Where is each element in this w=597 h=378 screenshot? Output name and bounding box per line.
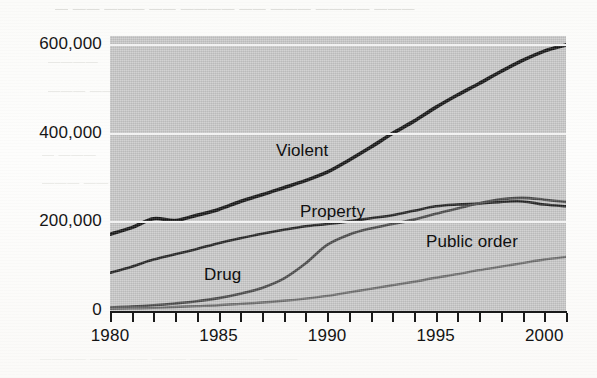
series-label-public-order: Public order — [426, 232, 518, 252]
y-tick-label-0: 0 — [0, 300, 102, 320]
y-tick-label-600000: 600,000 — [0, 34, 102, 54]
x-tick-label-1985: 1985 — [199, 326, 238, 346]
x-tick-1995 — [436, 313, 438, 322]
x-tick-2001 — [566, 313, 568, 322]
gridline-400000 — [110, 133, 566, 135]
x-tick-1985 — [219, 313, 221, 322]
x-tick-1994 — [414, 313, 416, 322]
x-tick-1993 — [392, 313, 394, 322]
x-tick-1983 — [175, 313, 177, 322]
series-lines — [110, 36, 566, 311]
x-tick-1997 — [479, 313, 481, 322]
series-label-property: Property — [300, 202, 365, 222]
x-tick-1998 — [501, 313, 503, 322]
x-tick-1988 — [284, 313, 286, 322]
x-tick-1992 — [371, 313, 373, 322]
series-label-violent: Violent — [276, 141, 328, 161]
x-tick-1987 — [262, 313, 264, 322]
x-tick-1990 — [327, 313, 329, 322]
x-tick-label-1990: 1990 — [308, 326, 347, 346]
x-tick-1991 — [349, 313, 351, 322]
x-tick-1982 — [153, 313, 155, 322]
y-tick-label-400000: 400,000 — [0, 123, 102, 143]
x-tick-2000 — [544, 313, 546, 322]
series-line-public-order — [110, 257, 566, 309]
y-tick-label-200000: 200,000 — [0, 211, 102, 231]
x-tick-1989 — [305, 313, 307, 322]
x-tick-1986 — [240, 313, 242, 322]
x-tick-label-2000: 2000 — [525, 326, 564, 346]
x-tick-label-1980: 1980 — [91, 326, 130, 346]
x-tick-1980 — [110, 313, 112, 322]
x-tick-1981 — [132, 313, 134, 322]
series-label-drug: Drug — [204, 265, 241, 285]
x-tick-1984 — [197, 313, 199, 322]
x-axis-line — [110, 311, 567, 313]
line-chart: 0200,000400,000600,000 19801985199019952… — [0, 0, 597, 378]
gridline-600000 — [110, 44, 566, 46]
plot-area — [110, 36, 566, 311]
x-tick-label-1995: 1995 — [416, 326, 455, 346]
x-tick-1996 — [457, 313, 459, 322]
x-tick-1999 — [523, 313, 525, 322]
